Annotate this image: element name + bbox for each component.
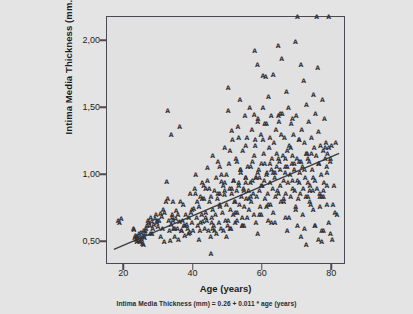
y-tick-label: 1,00: [60, 169, 100, 179]
y-tick-label: 2,00: [60, 35, 100, 45]
y-tick-label: 0,50: [60, 236, 100, 246]
plot-area: AAAAAAAAAAAAAAAAAAAAAAAAAAAAAAAAAAAAAAAA…: [106, 16, 345, 264]
scatter-plot-figure: Intima Media Thickness (mm.) 0,501,001,5…: [0, 0, 413, 314]
regression-line: [107, 17, 346, 265]
y-axis-title: Intima Media Thickness (mm.): [63, 0, 74, 181]
x-axis-title: Age (years): [106, 283, 345, 294]
y-tick-label: 1,50: [60, 102, 100, 112]
figure-caption: Intima Media Thickness (mm) = 0.26 + 0.0…: [0, 300, 413, 307]
